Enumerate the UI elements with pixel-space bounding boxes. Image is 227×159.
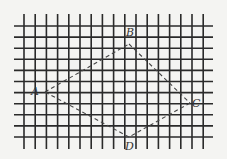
vertex-label-a: A bbox=[30, 85, 39, 98]
vertex-label-c: C bbox=[192, 97, 201, 110]
vertex-label-d: D bbox=[124, 140, 134, 153]
grid-diagram: A B C D bbox=[0, 0, 227, 159]
quadrilateral-abcd bbox=[45, 44, 190, 137]
vertex-label-b: B bbox=[125, 26, 134, 39]
